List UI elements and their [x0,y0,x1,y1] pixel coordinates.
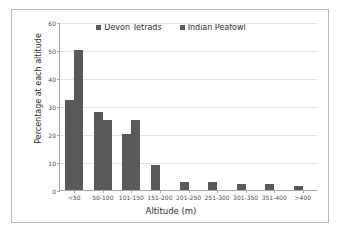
bar [74,50,83,190]
x-tick-label: 201-250 [176,194,201,201]
bar [180,182,189,190]
plot-area: 0102030405060 <5050-100101-150151-200201… [59,23,317,191]
y-tick-label: 60 [48,20,56,27]
x-tick-label: 50-100 [92,194,113,201]
x-tick-mark [74,190,75,193]
x-tick-mark [103,190,104,193]
x-tick-mark [160,190,161,193]
bar-group: <50 [60,23,89,190]
x-tick-mark [246,190,247,193]
bar [265,184,274,190]
bar [65,100,74,190]
x-tick-mark [274,190,275,193]
bar-group: 301-350 [231,23,260,190]
bar-group: 251-300 [203,23,232,190]
bars-layer: <5050-100101-150151-200201-250251-300301… [60,23,317,190]
x-tick-mark [217,190,218,193]
x-tick-label: 251-300 [205,194,230,201]
bar [122,134,131,190]
bar [151,165,160,190]
bar [94,112,103,190]
bar-group: >400 [289,23,318,190]
chart-figure: Percentage at each altitude Devon Tetrad… [0,0,342,237]
x-axis-title: Altitude (m) [12,206,330,216]
bar-group: 351-400 [260,23,289,190]
bar-group: 201-250 [174,23,203,190]
bar [131,120,140,190]
y-tick-label: 30 [48,104,56,111]
y-tick-label: 0 [52,188,56,195]
x-tick-mark [189,190,190,193]
y-tick-mark [57,191,60,192]
x-tick-label: 351-400 [262,194,287,201]
bar [294,186,303,190]
bar [103,120,112,190]
x-tick-label: >400 [295,194,311,201]
x-tick-label: 101-150 [119,194,144,201]
bar [208,182,217,190]
y-tick-label: 40 [48,76,56,83]
bar-group: 50-100 [89,23,118,190]
x-tick-mark [303,190,304,193]
bar [237,184,246,190]
x-tick-mark [131,190,132,193]
x-tick-label: 301-350 [233,194,258,201]
x-tick-label: 151-200 [147,194,172,201]
y-axis-title: Percentage at each altitude [34,19,43,159]
x-tick-label: <50 [68,194,81,201]
y-tick-label: 20 [48,132,56,139]
y-tick-label: 10 [48,160,56,167]
y-tick-label: 50 [48,48,56,55]
chart-frame: Percentage at each altitude Devon Tetrad… [11,9,329,223]
bar-group: 151-200 [146,23,175,190]
bar-group: 101-150 [117,23,146,190]
